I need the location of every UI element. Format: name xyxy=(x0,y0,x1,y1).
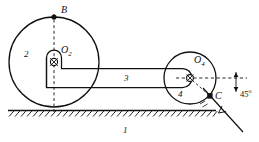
radius-o4-to-c xyxy=(193,81,210,96)
mechanism-drawing xyxy=(0,0,259,142)
label-link-2: 2 xyxy=(24,50,29,59)
angle-dim-arrow-down xyxy=(234,87,239,92)
mechanism-diagram: B 2 O2 3 O4 4 C 45o 1 xyxy=(0,0,259,142)
label-angle-degree-symbol: o xyxy=(249,88,252,94)
ground-link xyxy=(8,111,217,117)
angle-dimension-45 xyxy=(234,72,239,92)
label-pivot-o2-subscript: 2 xyxy=(68,50,72,58)
label-point-c: C xyxy=(215,91,222,101)
ground-hatching xyxy=(9,111,217,117)
label-point-b: B xyxy=(61,5,67,15)
label-angle-45: 45o xyxy=(240,88,252,98)
pivot-o2 xyxy=(50,58,58,66)
angle-dim-arrow-up xyxy=(234,73,239,78)
label-pivot-o4: O4 xyxy=(194,55,205,68)
pivot-o4 xyxy=(187,75,194,82)
label-link-4: 4 xyxy=(178,90,183,99)
label-pivot-o2: O2 xyxy=(61,45,72,58)
point-b-marker xyxy=(51,14,56,19)
label-pivot-o4-subscript: 4 xyxy=(201,60,205,68)
label-angle-value: 45 xyxy=(240,89,249,99)
label-link-3: 3 xyxy=(124,74,129,83)
label-link-1: 1 xyxy=(123,126,128,135)
